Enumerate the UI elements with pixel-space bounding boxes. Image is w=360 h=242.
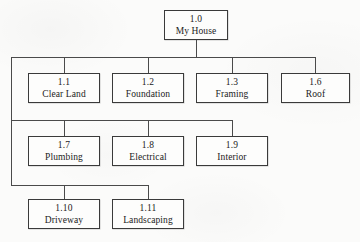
wbs-node-label: Landscaping bbox=[123, 214, 173, 226]
wbs-node-1-10[interactable]: 1.10 Driveway bbox=[28, 199, 100, 229]
wbs-node-code: 1.1 bbox=[58, 76, 70, 88]
wbs-node-code: 1.10 bbox=[55, 202, 72, 214]
wbs-node-1-11[interactable]: 1.11 Landscaping bbox=[112, 199, 184, 229]
connector-drop-1-9 bbox=[232, 120, 233, 136]
wbs-node-1-1[interactable]: 1.1 Clear Land bbox=[28, 73, 100, 103]
wbs-node-label: Foundation bbox=[126, 88, 170, 100]
wbs-node-1-9[interactable]: 1.9 Interior bbox=[196, 136, 268, 166]
connector-drop-1-7 bbox=[64, 120, 65, 136]
connector-bus-row-3 bbox=[11, 185, 149, 186]
wbs-node-label: Plumbing bbox=[45, 151, 83, 163]
wbs-node-code: 1.6 bbox=[309, 76, 321, 88]
wbs-node-label: Electrical bbox=[129, 151, 166, 163]
connector-root-drop bbox=[196, 40, 197, 57]
wbs-diagram: 1.0 My House 1.1 Clear Land 1.2 Foundati… bbox=[0, 0, 360, 242]
connector-bus-row-2 bbox=[11, 120, 233, 121]
connector-drop-1-8 bbox=[148, 120, 149, 136]
wbs-node-label: Interior bbox=[217, 151, 246, 163]
wbs-node-1-7[interactable]: 1.7 Plumbing bbox=[28, 136, 100, 166]
connector-drop-1-1 bbox=[64, 57, 65, 73]
wbs-node-label: My House bbox=[176, 25, 217, 37]
connector-drop-1-3 bbox=[232, 57, 233, 73]
wbs-node-code: 1.8 bbox=[142, 139, 154, 151]
wbs-node-code: 1.9 bbox=[226, 139, 238, 151]
wbs-node-label: Clear Land bbox=[42, 88, 85, 100]
wbs-node-code: 1.0 bbox=[190, 13, 202, 25]
connector-drop-1-6 bbox=[315, 57, 316, 73]
connector-drop-1-11 bbox=[148, 185, 149, 199]
wbs-node-code: 1.3 bbox=[226, 76, 238, 88]
wbs-node-code: 1.11 bbox=[139, 202, 156, 214]
wbs-node-code: 1.7 bbox=[58, 139, 70, 151]
wbs-node-label: Roof bbox=[306, 88, 325, 100]
connector-drop-1-10 bbox=[64, 185, 65, 199]
wbs-node-1-2[interactable]: 1.2 Foundation bbox=[112, 73, 184, 103]
connector-left-spine bbox=[11, 57, 12, 186]
wbs-node-1-3[interactable]: 1.3 Framing bbox=[196, 73, 268, 103]
connector-drop-1-2 bbox=[148, 57, 149, 73]
wbs-node-1-8[interactable]: 1.8 Electrical bbox=[112, 136, 184, 166]
wbs-node-root[interactable]: 1.0 My House bbox=[164, 10, 228, 40]
wbs-node-code: 1.2 bbox=[142, 76, 154, 88]
wbs-node-1-6[interactable]: 1.6 Roof bbox=[281, 73, 350, 103]
connector-bus-row-1 bbox=[11, 57, 316, 58]
wbs-node-label: Driveway bbox=[45, 214, 83, 226]
wbs-node-label: Framing bbox=[216, 88, 249, 100]
